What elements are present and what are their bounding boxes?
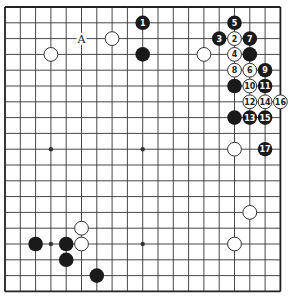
move-number: 7 bbox=[247, 35, 253, 44]
move-number: 4 bbox=[232, 50, 238, 59]
black-stone-disc bbox=[227, 79, 242, 94]
white-stone-disc bbox=[105, 32, 119, 46]
black-stone: 7 bbox=[243, 31, 258, 46]
star-point bbox=[141, 147, 145, 151]
move-number: 15 bbox=[260, 114, 272, 123]
black-stone bbox=[135, 47, 150, 62]
white-stone-disc bbox=[228, 237, 242, 251]
black-stone: 11 bbox=[258, 79, 273, 94]
white-stone bbox=[243, 206, 257, 220]
white-stone: 8 bbox=[228, 63, 242, 77]
black-stone: 3 bbox=[212, 31, 227, 46]
move-number: 11 bbox=[260, 82, 272, 91]
star-point bbox=[49, 147, 53, 151]
move-number: 3 bbox=[216, 35, 222, 44]
black-stone-disc bbox=[135, 47, 150, 62]
white-stone-disc bbox=[75, 237, 89, 251]
move-number: 17 bbox=[260, 145, 271, 154]
black-stone bbox=[28, 237, 43, 252]
board-mark-label: A bbox=[77, 33, 87, 46]
white-stone bbox=[75, 237, 89, 251]
white-stone-disc bbox=[228, 142, 242, 156]
white-stone: 2 bbox=[228, 32, 242, 46]
white-stone: 4 bbox=[228, 48, 242, 62]
go-board-diagram: A 1234567891011121314151617 bbox=[0, 0, 291, 302]
black-stone: 9 bbox=[258, 63, 273, 78]
white-stone: 14 bbox=[258, 95, 272, 109]
black-stone bbox=[227, 110, 242, 125]
star-point bbox=[49, 242, 53, 246]
white-stone bbox=[44, 48, 58, 62]
white-stone bbox=[228, 142, 242, 156]
white-stone: 6 bbox=[243, 63, 257, 77]
move-number: 1 bbox=[140, 19, 146, 28]
star-point bbox=[141, 242, 145, 246]
black-stone: 17 bbox=[258, 142, 273, 157]
white-stone-disc bbox=[44, 48, 58, 62]
white-stone: 10 bbox=[243, 79, 257, 93]
move-number: 10 bbox=[244, 82, 256, 91]
black-stone: 1 bbox=[135, 15, 150, 30]
go-board: A 1234567891011121314151617 bbox=[0, 0, 291, 302]
black-stone-disc bbox=[28, 237, 43, 252]
white-stone bbox=[75, 221, 89, 235]
move-number: 16 bbox=[275, 98, 287, 107]
white-stone-disc bbox=[243, 206, 257, 220]
move-number: 14 bbox=[260, 98, 272, 107]
black-stone bbox=[59, 252, 74, 267]
black-stone-disc bbox=[227, 110, 242, 125]
white-stone-disc bbox=[197, 48, 211, 62]
black-stone-disc bbox=[59, 237, 74, 252]
move-number: 9 bbox=[262, 66, 268, 75]
white-stone bbox=[197, 48, 211, 62]
black-stone-disc bbox=[90, 268, 105, 283]
board-marks: A bbox=[77, 33, 87, 46]
black-stone: 13 bbox=[243, 110, 258, 125]
black-stone bbox=[90, 268, 105, 283]
black-stone bbox=[243, 47, 258, 62]
move-number: 5 bbox=[232, 19, 238, 28]
black-stone bbox=[59, 237, 74, 252]
white-stone bbox=[228, 237, 242, 251]
move-number: 6 bbox=[247, 66, 253, 75]
white-stone: 12 bbox=[243, 95, 257, 109]
white-stone-disc bbox=[75, 221, 89, 235]
move-number: 12 bbox=[244, 98, 255, 107]
move-number: 13 bbox=[244, 114, 255, 123]
white-stone: 16 bbox=[274, 95, 288, 109]
white-stone bbox=[105, 32, 119, 46]
black-stone: 15 bbox=[258, 110, 273, 125]
move-number: 2 bbox=[232, 35, 238, 44]
black-stone bbox=[227, 79, 242, 94]
black-stone: 5 bbox=[227, 15, 242, 30]
black-stone-disc bbox=[243, 47, 258, 62]
move-number: 8 bbox=[232, 66, 238, 75]
black-stone-disc bbox=[59, 252, 74, 267]
